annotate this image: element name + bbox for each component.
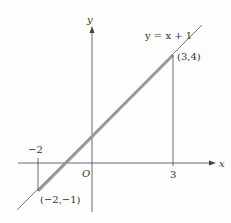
point-label-3-4: (3,4) [177,51,201,62]
highlighted-segment [38,55,173,191]
origin-label: O [82,168,90,179]
tick-label-3: 3 [170,169,176,180]
equation-label: y = x + 1 [144,30,192,41]
y-axis-label: y [86,14,93,25]
x-axis-arrow-icon [209,161,216,166]
tick-label-neg2: −2 [28,144,43,155]
y-axis-arrow-icon [90,26,95,33]
point-label-neg2-neg1: (−2,−1) [40,194,81,205]
graph-canvas: y x O y = x + 1 (3,4) (−2,−1) 3 −2 [0,0,231,223]
x-axis-label: x [219,158,225,169]
